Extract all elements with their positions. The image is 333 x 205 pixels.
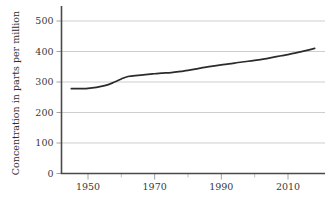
- y-tick-label: 400: [35, 46, 53, 57]
- data-series-group: [71, 48, 314, 88]
- y-axis-title-label: Concentration in parts per million: [10, 11, 21, 175]
- y-tick-label: 500: [35, 15, 53, 26]
- y-tick-labels: 0100200300400500: [35, 15, 53, 179]
- line-chart: 0100200300400500 1950197019902010 Concen…: [0, 0, 333, 205]
- x-tick-label: 1950: [76, 181, 100, 192]
- y-tick-label: 0: [47, 168, 53, 179]
- x-tick-marks: [88, 174, 288, 180]
- x-tick-label: 2010: [276, 181, 300, 192]
- x-tick-label: 1970: [143, 181, 167, 192]
- x-tick-label: 1990: [209, 181, 233, 192]
- y-tick-label: 100: [35, 137, 53, 148]
- y-axis-title: Concentration in parts per million: [10, 11, 21, 175]
- x-tick-labels: 1950197019902010: [76, 181, 300, 192]
- chart-container: 0100200300400500 1950197019902010 Concen…: [0, 0, 333, 205]
- y-tick-label: 200: [35, 107, 53, 118]
- gridlines: [62, 21, 326, 143]
- data-line-concentration: [71, 48, 314, 88]
- y-tick-label: 300: [35, 76, 53, 87]
